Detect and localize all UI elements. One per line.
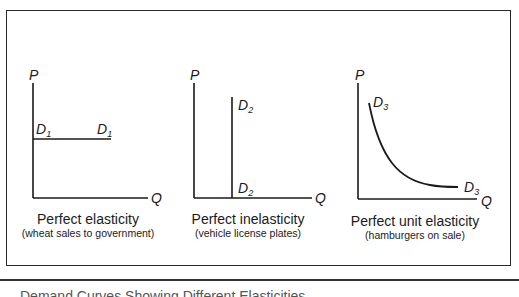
y-axis-label: P bbox=[355, 67, 365, 83]
curve-label-bottom: D3 bbox=[464, 179, 479, 197]
x-axis-label: Q bbox=[315, 190, 326, 206]
caption-title: Perfect inelasticity bbox=[178, 211, 318, 227]
x-axis-label: Q bbox=[151, 190, 162, 206]
caption-title: Perfect unit elasticity bbox=[340, 213, 490, 229]
elasticity-diagram: P Q D1 D1 P Q D2 D2 P Q D3 D3 bbox=[0, 0, 519, 297]
panel-perfect-unit-elasticity: P Q D3 D3 bbox=[355, 67, 492, 209]
panel-perfect-inelasticity: P Q D2 D2 bbox=[190, 67, 326, 206]
curve-label-bottom: D2 bbox=[238, 180, 253, 198]
curve-label-right: D1 bbox=[97, 121, 112, 139]
caption-note: (wheat sales to government) bbox=[18, 227, 158, 240]
x-axis-label: Q bbox=[481, 193, 492, 209]
caption-perfect-elasticity: Perfect elasticity (wheat sales to gover… bbox=[18, 211, 158, 240]
demand-curve-hyperbola bbox=[369, 103, 458, 187]
caption-title: Perfect elasticity bbox=[18, 211, 158, 227]
caption-perfect-unit-elasticity: Perfect unit elasticity (hamburgers on s… bbox=[340, 213, 490, 242]
panel-perfect-elasticity: P Q D1 D1 bbox=[29, 67, 162, 206]
y-axis-label: P bbox=[190, 67, 200, 83]
caption-note: (hamburgers on sale) bbox=[340, 229, 490, 242]
figure-caption-cutoff: Demand Curves Showing Different Elastici… bbox=[20, 289, 420, 297]
curve-label-left: D1 bbox=[36, 121, 51, 139]
caption-note: (vehicle license plates) bbox=[178, 227, 318, 240]
y-axis-label: P bbox=[29, 67, 39, 83]
bottom-rule bbox=[0, 279, 519, 281]
curve-label-top: D2 bbox=[238, 97, 253, 115]
caption-perfect-inelasticity: Perfect inelasticity (vehicle license pl… bbox=[178, 211, 318, 240]
curve-label-top: D3 bbox=[373, 94, 388, 112]
